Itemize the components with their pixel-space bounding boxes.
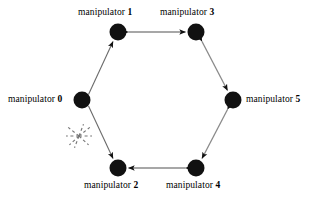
- label-manipulator-5: manipulator 5: [246, 94, 300, 105]
- diagram-canvas: manipulator 0 manipulator 1 manipulator …: [0, 0, 316, 199]
- starburst-ray: [79, 136, 89, 145]
- starburst-ray: [79, 127, 90, 136]
- edges-layer: [89, 32, 228, 168]
- nodes-layer: [74, 24, 242, 177]
- edge-3-5: [202, 42, 228, 91]
- label-manipulator-1: manipulator 1: [78, 7, 132, 18]
- label-manipulator-5-index: 5: [295, 94, 300, 104]
- node-manipulator-0[interactable]: [74, 92, 91, 109]
- label-manipulator-3-index: 3: [209, 7, 214, 17]
- label-manipulator-2-text: manipulator: [84, 180, 133, 190]
- label-manipulator-0-text: manipulator: [8, 94, 57, 104]
- label-manipulator-5-text: manipulator: [246, 94, 295, 104]
- label-manipulator-4: manipulator 4: [166, 180, 220, 191]
- label-manipulator-0-index: 0: [57, 94, 62, 104]
- node-manipulator-4[interactable]: [188, 160, 205, 177]
- label-manipulator-1-text: manipulator: [78, 7, 127, 17]
- label-manipulator-4-text: manipulator: [166, 180, 215, 190]
- node-manipulator-5[interactable]: [225, 92, 242, 109]
- edge-0-2: [89, 106, 114, 159]
- label-manipulator-2: manipulator 2: [84, 180, 138, 191]
- edge-5-4: [202, 110, 228, 159]
- node-manipulator-2[interactable]: [110, 160, 127, 177]
- label-manipulator-1-index: 1: [127, 7, 132, 17]
- label-manipulator-3: manipulator 3: [160, 7, 214, 18]
- starburst-ray: [68, 127, 79, 136]
- label-manipulator-2-index: 2: [133, 180, 138, 190]
- edge-0-1: [89, 42, 114, 95]
- label-manipulator-4-index: 4: [215, 180, 220, 190]
- node-manipulator-1[interactable]: [110, 24, 127, 41]
- broken-link-starburst: [66, 124, 92, 148]
- node-manipulator-3[interactable]: [188, 24, 205, 41]
- label-manipulator-3-text: manipulator: [160, 7, 209, 17]
- label-manipulator-0: manipulator 0: [8, 94, 62, 105]
- starburst-ray: [69, 136, 79, 145]
